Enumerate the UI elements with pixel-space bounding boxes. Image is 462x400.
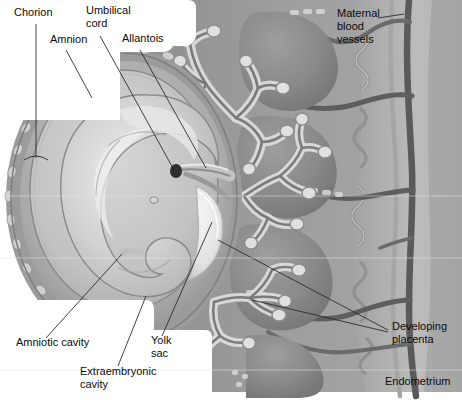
figure-canvas: Chorion Umbilical cord Amnion Allantois … <box>0 0 462 400</box>
label-allantois: Allantois <box>122 32 164 44</box>
label-amniotic-cavity: Amniotic cavity <box>16 336 90 348</box>
anatomical-diagram: Chorion Umbilical cord Amnion Allantois … <box>0 0 462 400</box>
label-amnion: Amnion <box>50 33 87 45</box>
label-chorion: Chorion <box>14 6 53 18</box>
label-endometrium: Endometrium <box>385 375 450 387</box>
embryo-eye <box>150 197 158 204</box>
